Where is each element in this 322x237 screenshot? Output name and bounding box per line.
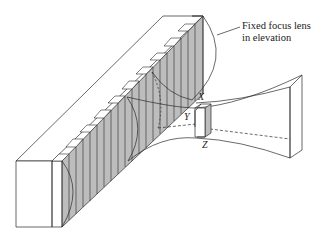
callout-line-2: in elevation xyxy=(242,32,311,44)
axis-label-x: X xyxy=(198,92,204,102)
axis-label-y: Y xyxy=(184,112,190,122)
callout-line-1: Fixed focus lens xyxy=(242,20,311,32)
axis-label-z: Z xyxy=(202,140,208,150)
callout-lens-label: Fixed focus lens in elevation xyxy=(242,20,311,44)
